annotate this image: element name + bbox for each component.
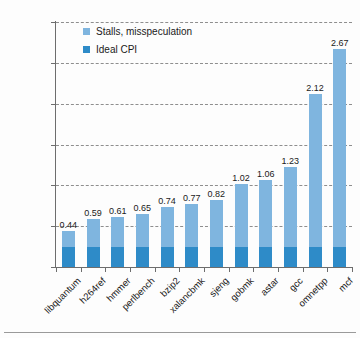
x-tick-mark [229, 267, 230, 272]
legend-item[interactable]: Stalls, misspeculation [83, 26, 192, 37]
bar-group[interactable]: 0.44 [62, 231, 75, 267]
bar-group[interactable]: 0.59 [87, 219, 100, 267]
x-tick-mark [130, 267, 131, 272]
bar-segment-ideal-cpi[interactable] [309, 247, 322, 267]
x-tick-mark [352, 267, 353, 272]
legend-label: Stalls, misspeculation [96, 26, 192, 37]
bar-group[interactable]: 2.67 [333, 49, 346, 267]
bar-segment-stalls-misspeculation[interactable] [333, 49, 346, 267]
x-tick-mark [105, 267, 106, 272]
cpi-bar-chart-figure: CPI 32.521.510.50 0.440.590.610.650.740.… [0, 0, 360, 338]
bar-group[interactable]: 0.74 [161, 207, 174, 267]
x-tick-mark [179, 267, 180, 272]
bottom-divider [4, 332, 356, 333]
x-tick-mark [56, 267, 57, 272]
bar-value-label: 2.67 [320, 38, 360, 48]
bar-value-label: 1.06 [246, 169, 286, 179]
x-tick-mark [155, 267, 156, 272]
bar-segment-ideal-cpi[interactable] [333, 247, 346, 267]
bar-segment-ideal-cpi[interactable] [210, 247, 223, 267]
bar-group[interactable]: 2.12 [309, 94, 322, 267]
bar-segment-stalls-misspeculation[interactable] [309, 94, 322, 267]
legend-swatch-icon [83, 28, 90, 35]
bar-segment-ideal-cpi[interactable] [62, 247, 75, 267]
bar-segment-ideal-cpi[interactable] [259, 247, 272, 267]
legend-label: Ideal CPI [96, 44, 137, 55]
bar-segment-ideal-cpi[interactable] [136, 247, 149, 267]
bar-group[interactable]: 1.06 [259, 180, 272, 267]
bar-group[interactable]: 0.82 [210, 200, 223, 267]
legend-swatch-icon [83, 46, 90, 53]
bar-segment-ideal-cpi[interactable] [284, 247, 297, 267]
bar-value-label: 0.44 [48, 220, 88, 230]
bar-group[interactable]: 0.77 [185, 204, 198, 267]
x-tick-mark [327, 267, 328, 272]
x-tick-mark [81, 267, 82, 272]
bar-group[interactable]: 0.65 [136, 214, 149, 267]
x-tick-mark [204, 267, 205, 272]
bar-group[interactable]: 1.23 [284, 167, 297, 267]
bar-segment-ideal-cpi[interactable] [185, 247, 198, 267]
bar-segment-ideal-cpi[interactable] [87, 247, 100, 267]
x-tick-mark [253, 267, 254, 272]
bar-segment-ideal-cpi[interactable] [111, 247, 124, 267]
bar-group[interactable]: 1.02 [235, 184, 248, 267]
bar-segment-ideal-cpi[interactable] [161, 247, 174, 267]
x-tick-mark [303, 267, 304, 272]
bar-segment-ideal-cpi[interactable] [235, 247, 248, 267]
bar-group[interactable]: 0.61 [111, 217, 124, 267]
chart-legend: Stalls, misspeculationIdeal CPI [83, 26, 192, 62]
legend-item[interactable]: Ideal CPI [83, 44, 192, 55]
x-tick-mark [278, 267, 279, 272]
bar-value-label: 0.82 [196, 189, 236, 199]
bar-value-label: 2.12 [295, 83, 335, 93]
bar-value-label: 1.23 [270, 156, 310, 166]
